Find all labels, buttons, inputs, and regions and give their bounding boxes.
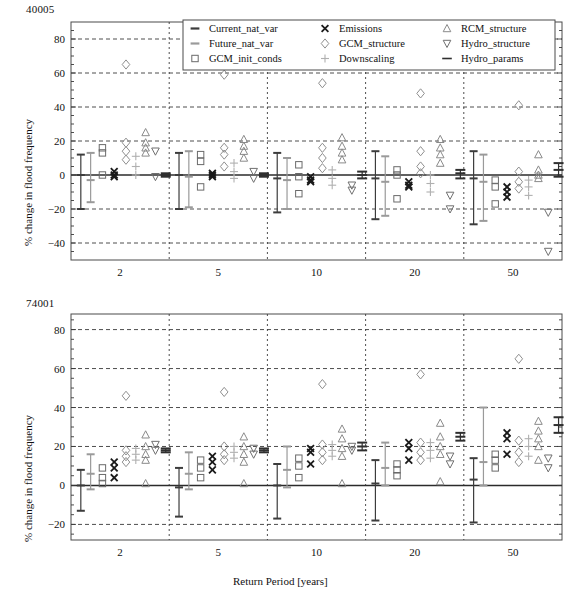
- y-tick-label: 20: [54, 440, 66, 452]
- legend-label: RCM_structure: [461, 23, 527, 34]
- x-axis-label: Return Period [years]: [233, 575, 328, 587]
- x-tick-label: 50: [507, 546, 519, 558]
- x-tick-label: 50: [507, 266, 519, 278]
- x-tick-label: 5: [216, 546, 222, 558]
- y-tick-label: 0: [60, 169, 66, 181]
- plot-area-top: 806040200−20−4025102050Current_nat_varFu…: [0, 0, 575, 300]
- y-axis-label-top: % change in flood frequency: [22, 119, 34, 246]
- panel-title-bottom: 74001: [26, 297, 55, 309]
- legend-label: GCM_structure: [339, 38, 405, 49]
- y-tick-label: 80: [54, 33, 66, 45]
- y-tick-label: 40: [54, 101, 66, 113]
- legend-label: Current_nat_var: [209, 23, 278, 34]
- y-tick-label: 0: [60, 479, 66, 491]
- x-tick-label: 10: [311, 546, 323, 558]
- plot-area-bottom: 806040200−2025102050: [0, 292, 575, 592]
- x-tick-label: 20: [409, 546, 421, 558]
- y-tick-label: 80: [54, 324, 66, 336]
- legend-label: Emissions: [339, 23, 382, 34]
- legend-label: Downscaling: [339, 53, 395, 64]
- legend-label: Hydro_params: [461, 53, 523, 64]
- y-tick-label: −40: [48, 237, 66, 249]
- panel-40005: 40005 % change in flood frequency 806040…: [0, 0, 575, 300]
- y-tick-label: 40: [54, 402, 66, 414]
- x-tick-label: 10: [311, 266, 323, 278]
- y-axis-label-bottom: % change in flood frequency: [22, 415, 34, 542]
- y-tick-label: −20: [48, 203, 66, 215]
- x-tick-label: 5: [216, 266, 222, 278]
- panel-title-top: 40005: [26, 3, 55, 15]
- legend-label: Future_nat_var: [209, 38, 274, 49]
- plot-frame: [71, 314, 562, 540]
- y-tick-label: 60: [54, 67, 66, 79]
- y-tick-label: 20: [54, 135, 66, 147]
- figure-root: 40005 % change in flood frequency 806040…: [0, 0, 575, 601]
- x-tick-label: 20: [409, 266, 421, 278]
- legend: Current_nat_varFuture_nat_varGCM_init_co…: [183, 20, 555, 70]
- panel-74001: 74001 % change in flood frequency Return…: [0, 292, 575, 601]
- x-tick-label: 2: [117, 546, 123, 558]
- x-tick-label: 2: [117, 266, 123, 278]
- legend-label: Hydro_structure: [461, 38, 530, 49]
- legend-label: GCM_init_conds: [209, 53, 282, 64]
- y-tick-label: −20: [48, 518, 66, 530]
- y-tick-label: 60: [54, 363, 66, 375]
